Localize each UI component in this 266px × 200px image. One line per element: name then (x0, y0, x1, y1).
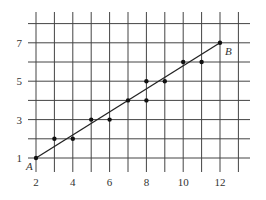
y-tick-label: 5 (17, 75, 23, 87)
x-axis-tick-labels: 24681012 (33, 176, 225, 188)
x-tick-label: 2 (33, 176, 39, 188)
x-tick-label: 12 (215, 176, 226, 188)
point-label-a: A (25, 160, 33, 172)
data-point (89, 117, 93, 121)
data-point (163, 79, 167, 83)
y-axis-tick-labels: 1357 (17, 37, 23, 164)
data-point (144, 79, 148, 83)
y-tick-label: 1 (17, 152, 23, 164)
x-tick-label: 6 (107, 176, 113, 188)
data-point (52, 137, 56, 141)
data-point (199, 60, 203, 64)
x-tick-label: 8 (144, 176, 150, 188)
x-tick-label: 10 (178, 176, 190, 188)
x-tick-label: 4 (70, 176, 76, 188)
data-point (34, 156, 38, 160)
scatter-chart: 24681012 1357 A B (0, 0, 266, 200)
grid (28, 12, 250, 172)
y-tick-label: 3 (17, 114, 23, 126)
data-point (144, 98, 148, 102)
data-point (181, 60, 185, 64)
y-tick-label: 7 (17, 37, 23, 49)
data-point (107, 117, 111, 121)
point-label-b: B (225, 45, 232, 57)
data-point (126, 98, 130, 102)
data-point (218, 41, 222, 45)
data-point (71, 137, 75, 141)
